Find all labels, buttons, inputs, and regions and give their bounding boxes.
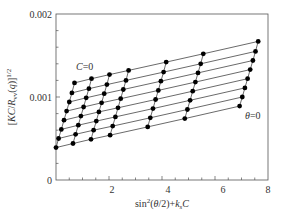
data-point [185, 107, 190, 112]
y-tick-label-0.001: 0.001 [30, 92, 53, 103]
data-point [94, 119, 99, 124]
data-point [193, 80, 198, 85]
x-tick-label-8: 8 [266, 184, 271, 195]
data-point [124, 78, 129, 83]
zimm-plot: 0 0.001 0.002 2 4 6 8 sin2(θ/2)+ksC [KC/… [0, 0, 289, 214]
x-tick-label-2: 2 [110, 184, 115, 195]
data-point [113, 115, 118, 120]
data-point [251, 58, 256, 63]
data-point [110, 124, 115, 129]
data-point [81, 105, 86, 110]
data-point [182, 116, 187, 121]
data-point [118, 96, 123, 101]
axis-ticks [56, 31, 255, 180]
c-zero-annotation: C=0 [76, 61, 93, 72]
data-point [56, 136, 61, 141]
data-point [67, 100, 72, 105]
y-tick-label-0: 0 [47, 175, 52, 186]
data-point [237, 104, 242, 109]
data-point [190, 89, 195, 94]
data-point [161, 70, 166, 75]
data-point [87, 86, 92, 91]
data-point [72, 81, 77, 86]
data-point [108, 133, 113, 138]
data-point [164, 60, 169, 65]
x-axis-label: sin2(θ/2)+ksC [135, 197, 189, 211]
data-point [188, 98, 193, 103]
data-point [105, 82, 110, 87]
data-point [148, 115, 153, 120]
data-point [145, 125, 150, 130]
zimm-grid-lines [56, 41, 258, 147]
data-point [89, 137, 94, 142]
data-point [84, 95, 89, 100]
data-point [97, 110, 102, 115]
data-point [248, 67, 253, 72]
data-point [156, 88, 161, 93]
data-point [126, 68, 131, 73]
data-point [159, 79, 164, 84]
data-point [196, 71, 201, 76]
data-point [256, 39, 261, 44]
data-point [62, 118, 67, 123]
data-point [79, 114, 84, 119]
data-point [76, 123, 81, 128]
data-point [121, 87, 126, 92]
x-tick-label-6: 6 [221, 184, 226, 195]
data-point [70, 91, 75, 96]
data-point [102, 91, 107, 96]
data-point [151, 106, 156, 111]
data-point [253, 49, 258, 54]
data-point [91, 128, 96, 133]
data-point [99, 100, 104, 105]
theta-zero-annotation: θ=0 [245, 110, 261, 121]
data-point [116, 105, 121, 110]
data-point [54, 145, 59, 150]
data-point [71, 141, 76, 146]
data-point [201, 51, 206, 56]
data-point [89, 76, 94, 81]
data-point [107, 72, 112, 77]
data-point [153, 97, 158, 102]
y-tick-label-0.002: 0.002 [30, 9, 53, 20]
x-tick-label-4: 4 [166, 184, 171, 195]
data-point [245, 76, 250, 81]
data-point [243, 86, 248, 91]
data-point [198, 61, 203, 66]
data-point [64, 109, 69, 114]
data-point [59, 127, 64, 132]
data-point [240, 95, 245, 100]
y-axis-label: [KC/Rvv(q)]1/2 [5, 68, 19, 125]
data-point [73, 132, 78, 137]
